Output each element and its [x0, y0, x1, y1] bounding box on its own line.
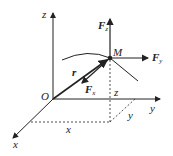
projection-z-label: z — [114, 87, 118, 98]
projection-x-label: x — [66, 124, 71, 135]
point-m — [108, 56, 113, 61]
z-axis-label: z — [42, 9, 46, 20]
force-fx-arrow — [82, 58, 110, 83]
diagram-canvas — [0, 0, 173, 156]
force-fz-subscript: z — [105, 25, 108, 33]
force-fy-subscript: y — [159, 57, 162, 65]
force-fx-label: Fx — [85, 84, 95, 97]
point-m-label: M — [113, 47, 122, 58]
force-components-diagram: z y x O M r Fz Fy Fx z x y — [0, 0, 173, 156]
y-axis-label: y — [150, 103, 155, 114]
force-fx-subscript: x — [92, 89, 95, 97]
x-axis-label: x — [13, 139, 18, 150]
origin-label: O — [41, 91, 49, 102]
force-fy-label: Fy — [152, 52, 162, 65]
x-axis — [13, 99, 53, 138]
position-vector-label: r — [72, 67, 76, 78]
force-fz-label: Fz — [98, 20, 108, 33]
projection-y-label: y — [128, 110, 133, 121]
position-vector-r — [53, 60, 107, 99]
